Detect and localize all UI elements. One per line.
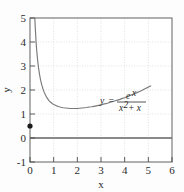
x-tick-label-4: 4 xyxy=(122,164,128,176)
x-tick-label-5: 5 xyxy=(146,164,152,176)
figure-container: 0 1 2 3 4 5 6 -1 0 1 2 3 4 5 x y y = e x… xyxy=(0,0,184,192)
y-tick-label-minus1: -1 xyxy=(17,156,26,168)
function-plot: 0 1 2 3 4 5 6 -1 0 1 2 3 4 5 x y y = e x… xyxy=(0,0,184,192)
y-tick-label-5: 5 xyxy=(21,12,27,24)
y-axis-title: y xyxy=(0,87,12,93)
x-tick-label-2: 2 xyxy=(75,164,81,176)
y-tick-label-3: 3 xyxy=(21,60,27,72)
y-tick-label-4: 4 xyxy=(21,36,27,48)
origin-point-marker xyxy=(27,123,32,128)
y-tick-label-0: 0 xyxy=(21,132,27,144)
equation-lhs: y xyxy=(99,96,105,106)
equation-equals: = xyxy=(108,96,114,106)
equation-numerator-exponent: x xyxy=(131,88,137,98)
x-axis-title: x xyxy=(98,178,104,190)
y-tick-label-1: 1 xyxy=(21,108,27,120)
equation-denominator-tail: + x xyxy=(128,103,142,113)
x-tick-label-1: 1 xyxy=(51,164,57,176)
y-tick-label-2: 2 xyxy=(21,84,27,96)
x-tick-label-0: 0 xyxy=(27,164,33,176)
x-tick-label-3: 3 xyxy=(98,164,104,176)
x-tick-label-6: 6 xyxy=(169,164,175,176)
